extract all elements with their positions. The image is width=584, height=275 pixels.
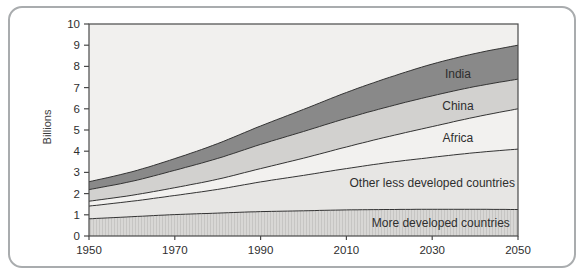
y-tick-label: 10 xyxy=(67,18,80,30)
x-tick-label: 2010 xyxy=(334,244,360,256)
x-tick-label: 1950 xyxy=(76,244,102,256)
y-tick-label: 6 xyxy=(74,103,80,115)
stacked-area-chart: 012345678910195019701990201020302050More… xyxy=(0,0,584,275)
series-label-other-less-developed-countries: Other less developed countries xyxy=(349,176,514,190)
y-tick-label: 1 xyxy=(74,209,80,221)
series-label-india: India xyxy=(445,67,471,81)
x-tick-label: 2030 xyxy=(419,244,445,256)
y-tick-label: 8 xyxy=(74,60,80,72)
y-tick-label: 2 xyxy=(74,188,80,200)
y-tick-label: 7 xyxy=(74,82,80,94)
y-tick-label: 5 xyxy=(74,124,80,136)
page: { "card": { "background": "#ffffff", "bo… xyxy=(0,0,584,275)
x-tick-label: 1990 xyxy=(248,244,274,256)
x-tick-label: 1970 xyxy=(162,244,188,256)
series-label-china: China xyxy=(442,99,474,113)
y-tick-label: 4 xyxy=(74,145,81,157)
y-tick-label: 3 xyxy=(74,166,80,178)
x-tick-label: 2050 xyxy=(505,244,531,256)
y-tick-label: 0 xyxy=(74,230,80,242)
y-tick-label: 9 xyxy=(74,39,80,51)
series-label-more-developed-countries: More developed countries xyxy=(372,216,510,230)
series-label-africa: Africa xyxy=(443,131,474,145)
